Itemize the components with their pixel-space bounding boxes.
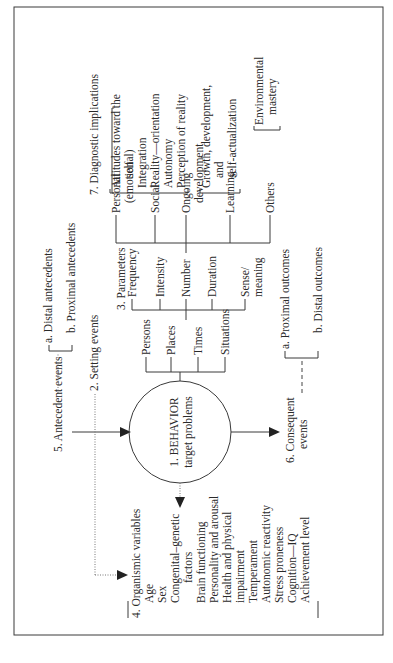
svg-text:Personality and arousal: Personality and arousal — [208, 496, 221, 603]
consequent-label-1: 6. Consequent — [284, 396, 297, 463]
svg-text:Congenital–genetic: Congenital–genetic — [169, 514, 182, 603]
setting-events-label: 2. Setting events — [88, 314, 101, 391]
arrow-head-icon — [117, 570, 128, 580]
svg-text:Intensity: Intensity — [154, 257, 167, 297]
svg-text:meaning: meaning — [252, 257, 265, 297]
distal-antecedents: a. Distal antecedents — [42, 248, 54, 343]
svg-text:Social: Social — [149, 184, 161, 213]
svg-text:Learning: Learning — [224, 171, 237, 213]
svg-text:Sense/: Sense/ — [239, 266, 251, 297]
svg-text:Personal: Personal — [110, 173, 122, 213]
rotated-diagram-page: 7. Diagnostic implications Attitudes tow… — [0, 0, 393, 663]
behavior-assessment-diagram: 7. Diagnostic implications Attitudes tow… — [0, 0, 393, 663]
svg-text:Others: Others — [264, 182, 276, 213]
consequent-label-2: events — [297, 419, 309, 449]
svg-text:Autonomy: Autonomy — [162, 139, 175, 188]
svg-text:factors: factors — [182, 551, 194, 583]
svg-text:Age: Age — [143, 584, 156, 603]
svg-text:Persons: Persons — [140, 319, 152, 355]
svg-text:Environmental: Environmental — [253, 57, 265, 125]
svg-text:Achievement level: Achievement level — [299, 516, 311, 603]
svg-text:Reality—orientation: Reality—orientation — [149, 93, 162, 188]
behavior-subtitle: target problems — [182, 396, 195, 468]
diagnostic-group-3: Environmental mastery — [253, 57, 280, 130]
organismic-variables: 4. Organismic variables Age Sex Congenit… — [128, 496, 318, 618]
arrow-head-icon — [269, 427, 280, 437]
svg-text:Autonomic reactivity: Autonomic reactivity — [260, 505, 273, 603]
svg-text:development: development — [193, 143, 206, 203]
proximal-outcomes: a. Proximal outcomes — [279, 249, 291, 349]
svg-text:Brain functioning: Brain functioning — [195, 521, 208, 603]
svg-text:Situations: Situations — [219, 308, 231, 355]
svg-text:impairment: impairment — [234, 549, 247, 603]
svg-text:mastery: mastery — [266, 78, 279, 115]
svg-text:Sex: Sex — [156, 586, 168, 604]
svg-text:Health and physical: Health and physical — [221, 512, 234, 603]
svg-text:Stress proneness: Stress proneness — [273, 526, 286, 603]
antecedent-bracket — [49, 345, 72, 351]
svg-text:(emotional): (emotional) — [123, 149, 136, 203]
svg-text:Integration: Integration — [136, 137, 149, 188]
svg-text:Frequency: Frequency — [126, 248, 139, 297]
svg-text:Temperament: Temperament — [247, 539, 260, 603]
consequent-bracket — [285, 351, 318, 358]
number-branch-tree: Personal (emotional) Social Ongoing deve… — [110, 143, 276, 253]
svg-text:Duration: Duration — [206, 256, 218, 297]
svg-text:Places: Places — [165, 325, 177, 355]
distal-outcomes: b. Distal outcomes — [312, 247, 324, 333]
arrow-head-icon — [175, 497, 185, 508]
svg-text:Times: Times — [192, 326, 204, 355]
svg-text:self-actualization: self-actualization — [226, 99, 238, 178]
behavior-circle — [129, 381, 231, 483]
behavior-title: 1. BEHAVIOR — [168, 397, 180, 467]
proximal-antecedents: b. Proximal antecedents — [65, 222, 77, 333]
svg-text:Cognition—IQ: Cognition—IQ — [286, 533, 299, 603]
svg-text:4. Organismic variables: 4. Organismic variables — [130, 508, 143, 618]
diagnostic-title: 7. Diagnostic implications — [88, 73, 101, 195]
svg-text:Number: Number — [180, 259, 192, 297]
svg-text:Ongoing: Ongoing — [180, 173, 193, 214]
parameters-tree: Frequency Intensity Number Duration Sens… — [126, 248, 265, 320]
